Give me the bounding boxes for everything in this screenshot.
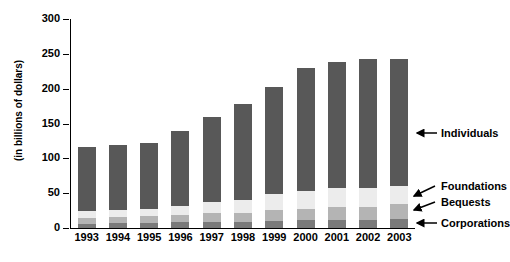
bar-segment-corporations[interactable] [328,220,346,228]
bar-segment-corporations[interactable] [109,223,127,228]
x-tick-label-1996: 1996 [165,232,196,243]
bar-segment-foundations[interactable] [328,188,346,207]
bar-segment-foundations[interactable] [390,186,408,205]
y-tick-mark-300 [63,19,69,20]
bar-segment-individuals[interactable] [140,143,158,208]
stacked-bar[interactable] [265,87,283,228]
y-tick-label-50: 50 [26,187,60,198]
stacked-bar[interactable] [359,59,377,228]
x-tick-label-1995: 1995 [134,232,165,243]
x-tick-label-2003: 2003 [384,232,415,243]
bar-segment-foundations[interactable] [171,206,189,215]
stacked-bar[interactable] [328,62,346,229]
bar-segment-corporations[interactable] [390,219,408,228]
plot-area [71,19,415,228]
bar-segment-individuals[interactable] [78,147,96,210]
x-tick-label-2002: 2002 [352,232,383,243]
bar-segment-foundations[interactable] [140,209,158,217]
y-tick-mark-250 [63,54,69,55]
x-tick-label-1999: 1999 [259,232,290,243]
stacked-bar[interactable] [234,104,252,228]
callout-individuals-label: Individuals [441,128,498,139]
bar-segment-corporations[interactable] [203,222,221,228]
y-tick-label-0: 0 [26,222,60,233]
bar-segment-individuals[interactable] [203,117,221,201]
callout-foundations-label: Foundations [441,181,507,192]
stacked-bar[interactable] [203,117,221,228]
bar-segment-individuals[interactable] [328,62,346,189]
bar-group[interactable] [109,19,127,228]
bar-segment-foundations[interactable] [297,191,315,208]
y-tick-label-200: 200 [26,83,60,94]
bar-segment-corporations[interactable] [234,222,252,228]
x-tick-label-2000: 2000 [290,232,321,243]
bar-segment-corporations[interactable] [78,224,96,228]
bar-segment-bequests[interactable] [359,207,377,220]
y-tick-label-150: 150 [26,118,60,129]
x-tick-label-1994: 1994 [102,232,133,243]
bar-group[interactable] [265,19,283,228]
bar-segment-corporations[interactable] [265,221,283,228]
bar-segment-bequests[interactable] [234,213,252,222]
y-tick-mark-100 [63,158,69,159]
bar-segment-individuals[interactable] [390,59,408,186]
y-tick-mark-200 [63,89,69,90]
bar-segment-bequests[interactable] [328,207,346,220]
x-tick-label-1998: 1998 [227,232,258,243]
bar-segment-bequests[interactable] [265,210,283,221]
bar-segment-individuals[interactable] [109,145,127,210]
bar-group[interactable] [328,19,346,228]
bar-group[interactable] [390,19,408,228]
x-axis-labels: 1993199419951996199719981999200020012002… [71,232,415,252]
bar-segment-bequests[interactable] [297,209,315,221]
y-tick-label-100: 100 [26,152,60,163]
bar-segment-corporations[interactable] [140,223,158,228]
y-tick-label-300: 300 [26,13,60,24]
bar-segment-bequests[interactable] [390,204,408,219]
bar-segment-individuals[interactable] [171,131,189,206]
bar-segment-foundations[interactable] [234,200,252,213]
y-tick-mark-50 [63,193,69,194]
y-tick-mark-0 [63,228,69,229]
bar-segment-bequests[interactable] [171,215,189,223]
bar-segment-individuals[interactable] [265,87,283,194]
stacked-bar[interactable] [171,130,189,228]
bar-group[interactable] [234,19,252,228]
stacked-bar[interactable] [390,59,408,228]
bar-segment-individuals[interactable] [359,59,377,187]
callout-bequests-label: Bequests [441,197,491,208]
bar-segment-bequests[interactable] [203,213,221,222]
bar-segment-foundations[interactable] [109,210,127,217]
bar-segment-corporations[interactable] [171,222,189,228]
y-axis-title: (in billions of dollars) [13,46,24,176]
stacked-bar[interactable] [140,143,158,228]
bar-segment-individuals[interactable] [234,104,252,200]
bar-segment-foundations[interactable] [78,211,96,218]
y-axis-labels: 050100150200250300 [24,0,60,262]
bar-group[interactable] [297,19,315,228]
bar-segment-corporations[interactable] [297,220,315,228]
stacked-bar[interactable] [78,147,96,228]
bar-group[interactable] [140,19,158,228]
bar-segment-foundations[interactable] [265,194,283,210]
bar-segment-foundations[interactable] [203,202,221,213]
stacked-bar[interactable] [297,68,315,228]
stacked-bar[interactable] [109,145,127,228]
bar-group[interactable] [359,19,377,228]
x-tick-label-1997: 1997 [196,232,227,243]
bar-segment-bequests[interactable] [140,216,158,223]
x-tick-label-1993: 1993 [71,232,102,243]
callout-corporations-label: Corporations [441,218,510,229]
bar-segment-foundations[interactable] [359,188,377,208]
bar-segment-individuals[interactable] [297,68,315,191]
bar-group[interactable] [203,19,221,228]
y-tick-label-250: 250 [26,48,60,59]
x-tick-label-2001: 2001 [321,232,352,243]
bar-group[interactable] [171,19,189,228]
y-tick-mark-150 [63,124,69,125]
bar-group[interactable] [78,19,96,228]
bar-segment-corporations[interactable] [359,220,377,228]
